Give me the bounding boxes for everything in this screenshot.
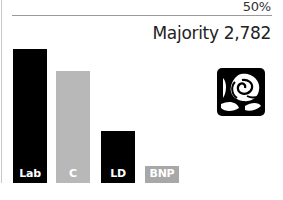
majority-label: Majority 2,782 (152, 23, 271, 43)
bar-label: BNP (150, 167, 175, 183)
bar-label: LD (110, 167, 126, 183)
bar-label: C (69, 167, 77, 183)
bar-lab: Lab (13, 49, 47, 183)
fifty-percent-label: 50% (243, 0, 271, 14)
bar-bnp: BNP (145, 166, 179, 183)
left-border (1, 0, 2, 183)
bar-ld: LD (101, 131, 135, 183)
fifty-percent-line (12, 15, 272, 16)
labour-rose-icon (217, 68, 265, 116)
bar-c: C (56, 71, 90, 183)
bar-label: Lab (19, 167, 40, 183)
